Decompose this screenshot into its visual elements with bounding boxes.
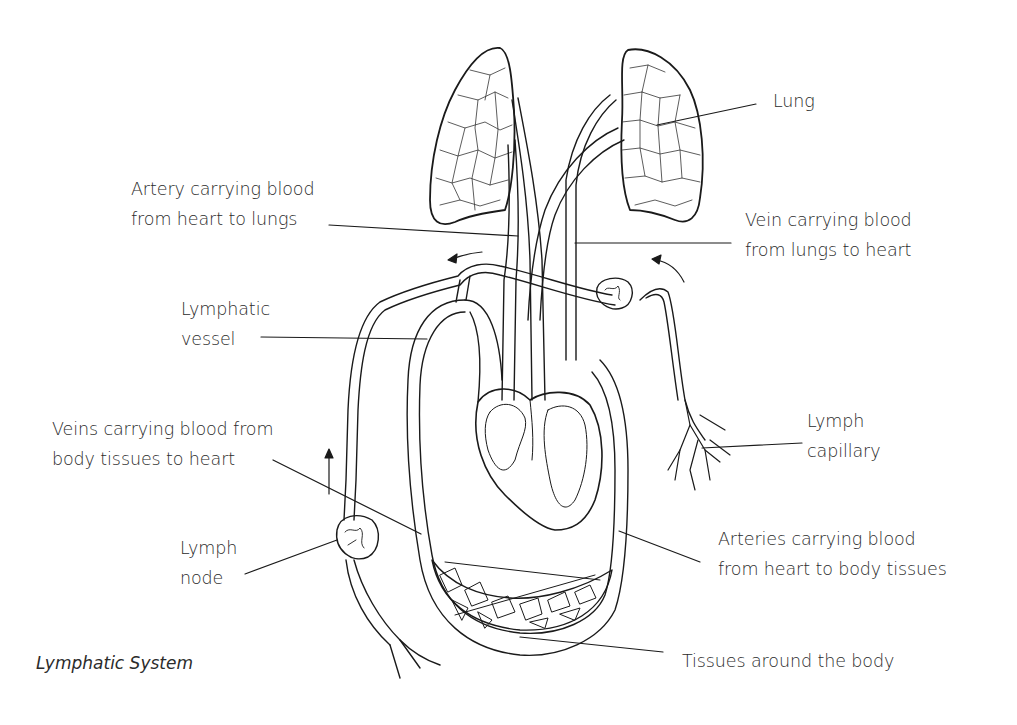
lymph-node-lower: [337, 516, 379, 559]
label-vein-from-lungs: Vein carrying blood from lungs to heart: [745, 205, 912, 265]
leader-arteries-to-body: [619, 531, 700, 562]
label-vein-line-1: Vein carrying blood: [745, 205, 912, 235]
label-veins-line-2: body tissues to heart: [52, 444, 273, 474]
diagram-artwork: [0, 0, 1017, 725]
lymph-capillary-branches: [668, 400, 730, 490]
leader-lung: [657, 104, 756, 125]
capillary-bed: [432, 560, 612, 630]
heart: [476, 389, 602, 530]
label-artery-line-2: from heart to lungs: [131, 204, 314, 234]
leader-lymphatic-vessel: [261, 337, 427, 339]
leader-artery-to-lungs: [329, 225, 518, 236]
label-lymph-node: Lymph node: [180, 533, 237, 593]
label-vein-line-2: from lungs to heart: [745, 235, 912, 265]
leader-lymph-node: [245, 540, 337, 574]
left-lung: [430, 48, 515, 224]
systemic-loops: [407, 300, 628, 655]
label-node-line-1: Lymph: [180, 533, 237, 563]
label-lymphatic-line-1: Lymphatic: [181, 294, 270, 324]
label-tissues-line-1: Tissues around the body: [682, 646, 894, 676]
label-lung: Lung: [773, 86, 815, 116]
leader-tissues: [520, 637, 663, 652]
label-lymph-capillary: Lymph capillary: [807, 406, 880, 466]
label-lymphatic-line-2: vessel: [181, 324, 270, 354]
lymphatic-system-diagram: Lung Artery carrying blood from heart to…: [0, 0, 1017, 725]
label-artery-to-lungs: Artery carrying blood from heart to lung…: [131, 174, 314, 234]
label-artery-line-1: Artery carrying blood: [131, 174, 314, 204]
pulmonary-vessels: [502, 95, 624, 400]
right-lung: [621, 49, 702, 221]
label-lymphatic-vessel: Lymphatic vessel: [181, 294, 270, 354]
curved-arrow-right: [656, 260, 684, 282]
label-arteries-line-2: from heart to body tissues: [718, 554, 947, 584]
label-capillary-line-2: capillary: [807, 436, 880, 466]
label-capillary-line-1: Lymph: [807, 406, 880, 436]
label-veins-from-body: Veins carrying blood from body tissues t…: [52, 414, 273, 474]
leader-veins-from-body: [273, 460, 421, 534]
label-tissues: Tissues around the body: [682, 646, 894, 676]
label-veins-line-1: Veins carrying blood from: [52, 414, 273, 444]
label-arteries-to-body: Arteries carrying blood from heart to bo…: [718, 524, 947, 584]
diagram-caption: Lymphatic System: [36, 653, 193, 673]
label-arteries-line-1: Arteries carrying blood: [718, 524, 947, 554]
label-lung-line-1: Lung: [773, 86, 815, 116]
label-node-line-2: node: [180, 563, 237, 593]
